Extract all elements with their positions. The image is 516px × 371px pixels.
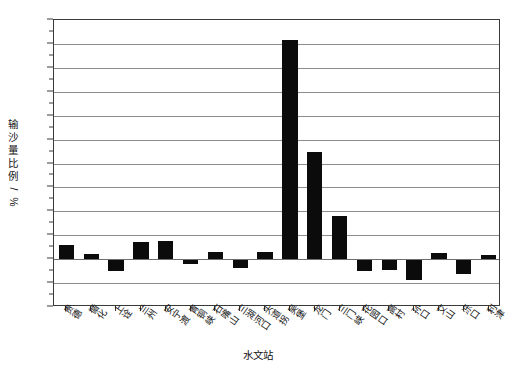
bar	[59, 245, 74, 259]
bar	[133, 242, 148, 259]
gridline	[54, 68, 499, 69]
bar	[208, 252, 223, 259]
bar	[456, 259, 471, 274]
bar	[158, 241, 173, 259]
y-axis: 50454035302520151050-5-10	[0, 0, 53, 371]
sediment-ratio-bar-chart: 输沙量比例/% 50454035302520151050-5-10 贵德循化上诠…	[0, 0, 516, 371]
bar	[406, 259, 421, 280]
gridline	[54, 44, 499, 45]
bar	[233, 259, 248, 268]
plot-area	[53, 19, 500, 306]
zero-baseline	[54, 259, 499, 260]
gridline	[54, 211, 499, 212]
x-axis-title: 水文站	[0, 347, 516, 362]
gridline	[54, 164, 499, 165]
gridline	[54, 235, 499, 236]
bar	[382, 259, 397, 270]
bar	[108, 259, 123, 271]
gridline	[54, 92, 499, 93]
gridline	[54, 283, 499, 284]
bar	[282, 40, 297, 259]
gridline	[54, 187, 499, 188]
gridline	[54, 140, 499, 141]
x-axis-tick-label: 利津	[485, 303, 506, 322]
bar	[257, 252, 272, 259]
bar	[357, 259, 372, 271]
gridline	[54, 116, 499, 117]
bar	[307, 152, 322, 259]
bar	[332, 216, 347, 259]
